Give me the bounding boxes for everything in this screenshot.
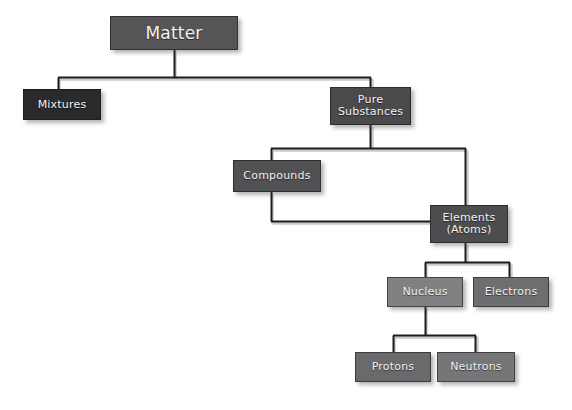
node-neutrons[interactable]: Neutrons [437, 352, 515, 382]
node-compounds-label: Compounds [234, 170, 320, 182]
node-matter[interactable]: Matter [110, 16, 238, 50]
node-mixtures-label: Mixtures [24, 99, 100, 111]
node-nucleus[interactable]: Nucleus [387, 277, 463, 307]
node-electrons[interactable]: Electrons [473, 277, 549, 307]
connector-shadows [60, 52, 512, 354]
node-compounds[interactable]: Compounds [233, 160, 321, 192]
node-nucleus-label: Nucleus [388, 286, 462, 298]
node-pure-substances[interactable]: Pure Substances [330, 87, 411, 125]
node-elements-atoms[interactable]: Elements (Atoms) [430, 205, 508, 243]
node-matter-label: Matter [111, 24, 237, 42]
node-protons[interactable]: Protons [355, 352, 431, 382]
node-electrons-label: Electrons [474, 286, 548, 298]
node-elements-atoms-label: Elements (Atoms) [431, 212, 507, 236]
matter-classification-diagram: Matter Mixtures Pure Substances Compound… [0, 0, 572, 410]
node-neutrons-label: Neutrons [438, 361, 514, 373]
node-protons-label: Protons [356, 361, 430, 373]
node-pure-substances-label: Pure Substances [331, 94, 410, 118]
node-mixtures[interactable]: Mixtures [23, 89, 101, 120]
